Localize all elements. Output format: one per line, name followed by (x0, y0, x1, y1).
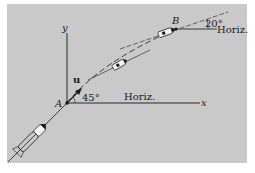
u-vector-label: u (73, 74, 80, 85)
y-axis-label: y (61, 22, 68, 33)
point-a-label: A (54, 98, 62, 109)
point-b-label: B (171, 15, 179, 26)
trajectory-diagram: y x Horiz. u 45° A 20° Horiz. B (0, 0, 255, 173)
angle-label-a: 45° (82, 92, 100, 103)
x-axis-label: x (201, 97, 207, 108)
horiz-label-b: Horiz. (217, 24, 248, 35)
horiz-label-a: Horiz. (124, 91, 155, 102)
rocket-icon-b (158, 26, 177, 38)
rocket-icon-mid (112, 57, 129, 70)
angle-arc-a (73, 97, 75, 103)
